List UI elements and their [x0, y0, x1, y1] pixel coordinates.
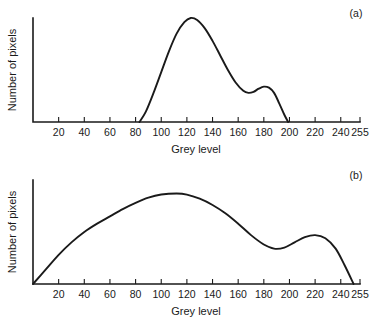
- histogram-curve: [139, 18, 288, 122]
- y-axis-title: Number of pixels: [6, 28, 18, 111]
- x-axis-tick-labels: 20406080100120140160180200220240255: [53, 126, 369, 138]
- x-axis-tick-label: 160: [229, 288, 247, 300]
- x-axis-tick-labels: 20406080100120140160180200220240255: [53, 288, 369, 300]
- axes-group-a: [33, 18, 360, 122]
- x-axis-tick-label: 100: [152, 126, 170, 138]
- x-axis-tick-label: 140: [204, 288, 222, 300]
- x-axis-tick-label: 220: [306, 288, 324, 300]
- x-axis-tick-label: 140: [204, 126, 222, 138]
- y-axis-title: Number of pixels: [6, 190, 18, 273]
- x-axis-tick-label: 20: [53, 288, 65, 300]
- chart-panel-a: 20406080100120140160180200220240255 Grey…: [0, 0, 380, 163]
- x-axis-tick-label: 180: [255, 288, 273, 300]
- x-axis-tick-label: 200: [281, 126, 299, 138]
- x-axis-tick-label: 60: [104, 288, 116, 300]
- x-axis-tick-label: 80: [130, 288, 142, 300]
- x-axis-tick-label: 240: [332, 126, 350, 138]
- x-axis-tick-label: 40: [78, 288, 90, 300]
- x-axis-tick-label: 160: [229, 126, 247, 138]
- figure-grey-level-histograms: 20406080100120140160180200220240255 Grey…: [0, 0, 380, 325]
- chart-panel-b: 20406080100120140160180200220240255 Grey…: [0, 162, 380, 325]
- chart-svg-a: 20406080100120140160180200220240255 Grey…: [0, 0, 380, 163]
- panel-label-a: (a): [350, 7, 363, 19]
- chart-svg-b: 20406080100120140160180200220240255 Grey…: [0, 162, 380, 325]
- axis-lines: [33, 18, 360, 122]
- axes-group-b: [33, 180, 360, 284]
- x-axis-tick-label: 80: [130, 126, 142, 138]
- axis-lines: [33, 180, 360, 284]
- x-axis-title: Grey level: [171, 143, 221, 155]
- x-axis-tick-label: 255: [351, 126, 369, 138]
- x-axis-tick-label: 100: [152, 288, 170, 300]
- x-axis-tick-label: 40: [78, 126, 90, 138]
- x-axis-tick-label: 120: [178, 126, 196, 138]
- x-axis-title: Grey level: [171, 305, 221, 317]
- x-axis-tick-label: 240: [332, 288, 350, 300]
- x-axis-tick-label: 220: [306, 126, 324, 138]
- x-axis-tick-label: 120: [178, 288, 196, 300]
- x-axis-tick-label: 60: [104, 126, 116, 138]
- histogram-curve: [33, 194, 354, 284]
- x-axis-tick-label: 200: [281, 288, 299, 300]
- x-axis-tick-label: 20: [53, 126, 65, 138]
- x-axis-tick-label: 255: [351, 288, 369, 300]
- x-axis-tick-label: 180: [255, 126, 273, 138]
- panel-label-b: (b): [350, 169, 363, 181]
